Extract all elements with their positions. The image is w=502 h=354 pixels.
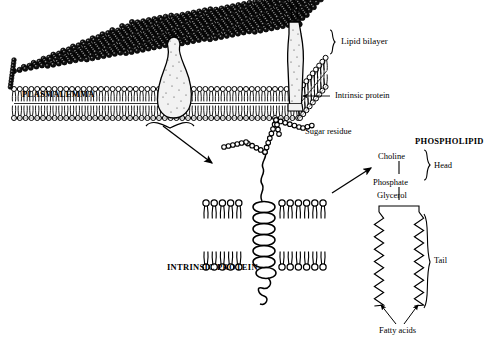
- zoom-arrow-to-detail: [163, 126, 212, 163]
- figure-canvas: PLASMALEMMA Lipid bilayer Intrinsic prot…: [0, 0, 502, 354]
- head-brace: [424, 150, 430, 180]
- protein-zoom-brace: [146, 122, 194, 128]
- lipid-bilayer-brace: [330, 30, 335, 54]
- tail-brace: [424, 214, 430, 308]
- fatty-acid-tails: [374, 212, 423, 306]
- label-fatty-acids: Fatty acids: [379, 326, 416, 335]
- sugar-residue-chains: [222, 118, 314, 155]
- protein-lower-tail: [258, 278, 270, 304]
- label-intrinsic-protein-top: Intrinsic protein: [335, 91, 390, 100]
- diagram-svg: [0, 0, 502, 354]
- label-tail: Tail: [434, 256, 447, 265]
- glycerol-tail-bracket: [379, 206, 419, 212]
- protein-upper-chain: [261, 152, 266, 201]
- fatty-acid-leader-right: [404, 305, 418, 324]
- label-sugar-residue: Sugar residue: [305, 127, 352, 136]
- label-head: Head: [434, 161, 452, 170]
- zoom-arrow-to-phospholipid: [332, 168, 371, 193]
- label-glycerol: Glycerol: [377, 191, 407, 200]
- intrinsic-protein-detail: [203, 118, 371, 305]
- fatty-acid-leader-left: [381, 305, 396, 324]
- label-phosphate: Phosphate: [373, 178, 408, 187]
- label-intrinsic-protein-detail: INTRINSIC PROTEIN: [167, 263, 258, 272]
- membrane-block: [8, 0, 335, 163]
- label-phospholipid: PHOSPHOLIPID: [415, 137, 484, 146]
- label-choline: Choline: [378, 152, 405, 161]
- label-lipid-bilayer: Lipid bilayer: [341, 37, 388, 46]
- label-plasmalemma: PLASMALEMMA: [22, 90, 95, 99]
